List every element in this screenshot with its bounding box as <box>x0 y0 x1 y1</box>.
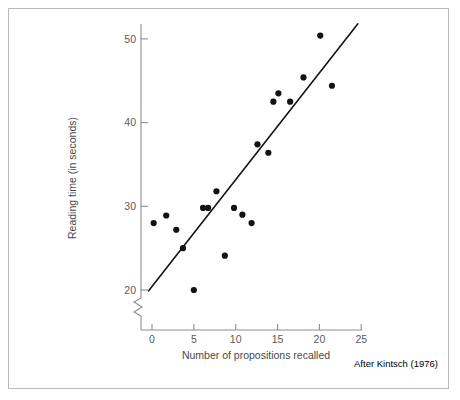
y-axis-title: Reading time (in seconds) <box>66 117 78 239</box>
y-tick-label-50: 50 <box>124 33 136 45</box>
data-point-1 <box>163 212 169 218</box>
y-tick-label-40: 40 <box>124 116 136 128</box>
data-point-10 <box>239 212 245 218</box>
y-tick-label-30: 30 <box>124 200 136 212</box>
y-tick-label-20: 20 <box>124 284 136 296</box>
data-point-19 <box>329 83 335 89</box>
x-tick-label-15: 15 <box>272 333 284 345</box>
data-point-15 <box>275 90 281 96</box>
data-point-11 <box>249 220 255 226</box>
scatter-plot: 203040500510152025Number of propositions… <box>0 0 460 400</box>
data-point-9 <box>231 205 237 211</box>
data-point-2 <box>173 227 179 233</box>
figure-caption: After Kintsch (1976) <box>278 358 438 369</box>
regression-line <box>149 24 358 291</box>
x-tick-label-20: 20 <box>314 333 326 345</box>
data-point-8 <box>222 253 228 259</box>
data-point-17 <box>300 74 306 80</box>
data-point-3 <box>180 245 186 251</box>
x-tick-label-25: 25 <box>355 333 367 345</box>
data-point-6 <box>205 205 211 211</box>
data-point-16 <box>287 99 293 105</box>
x-tick-label-10: 10 <box>230 333 242 345</box>
data-point-18 <box>317 32 323 38</box>
data-point-12 <box>254 141 260 147</box>
data-point-14 <box>270 99 276 105</box>
data-point-0 <box>151 220 157 226</box>
x-tick-label-0: 0 <box>149 333 155 345</box>
data-point-13 <box>265 150 271 156</box>
y-axis-break-icon <box>134 298 142 316</box>
x-tick-label-5: 5 <box>191 333 197 345</box>
data-point-4 <box>191 287 197 293</box>
data-point-7 <box>213 188 219 194</box>
figure-root: 203040500510152025Number of propositions… <box>0 0 460 400</box>
